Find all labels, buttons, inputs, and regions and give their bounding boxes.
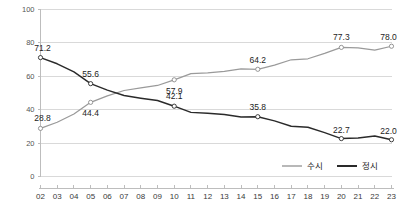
series-markers-정시: 71.255.642.135.822.722.0: [34, 43, 397, 142]
data-point-수시-10: [172, 78, 176, 82]
data-label-수시-02: 28.8: [34, 113, 51, 123]
data-label-수시-05: 44.4: [82, 108, 99, 118]
data-point-수시-15: [256, 67, 260, 71]
legend-label-정시: 정시: [362, 161, 378, 171]
data-label-수시-15: 64.2: [250, 55, 267, 65]
data-point-수시-05: [89, 100, 93, 104]
x-axis-label-11: 11: [187, 192, 196, 201]
x-axis-label-19: 19: [320, 192, 329, 201]
x-axis-label-03: 03: [53, 192, 62, 201]
x-axis-label-08: 08: [136, 192, 145, 201]
x-axis-label-06: 06: [103, 192, 112, 201]
data-label-정시-20: 22.7: [333, 125, 350, 135]
data-point-수시-23: [389, 44, 393, 48]
x-axis-label-07: 07: [120, 192, 129, 201]
x-axis-label-18: 18: [303, 192, 312, 201]
x-axis-label-23: 23: [387, 192, 396, 201]
data-point-수시-20: [339, 45, 343, 49]
x-axis-label-05: 05: [86, 192, 95, 201]
x-axis-label-09: 09: [153, 192, 162, 201]
legend: 수시정시: [282, 161, 378, 171]
grid-group: 020406080100: [22, 5, 392, 181]
y-axis-label-60: 60: [26, 72, 34, 81]
x-axis-label-20: 20: [337, 192, 346, 201]
y-axis-label-20: 20: [26, 139, 34, 148]
data-label-정시-15: 35.8: [250, 102, 267, 112]
x-axis-label-21: 21: [354, 192, 363, 201]
x-axis-label-17: 17: [287, 192, 296, 201]
x-axis-label-13: 13: [220, 192, 229, 201]
x-axis-label-16: 16: [270, 192, 279, 201]
legend-label-수시: 수시: [307, 161, 323, 171]
data-point-정시-15: [256, 115, 260, 119]
data-label-수시-20: 77.3: [333, 32, 350, 42]
y-axis-label-0: 0: [30, 172, 34, 181]
data-point-정시-02: [38, 55, 42, 59]
data-label-정시-05: 55.6: [82, 69, 99, 79]
data-label-정시-23: 22.0: [380, 126, 397, 136]
data-point-정시-20: [339, 136, 343, 140]
x-axis-label-02: 02: [36, 192, 45, 201]
data-label-정시-02: 71.2: [34, 43, 51, 53]
data-point-정시-05: [89, 82, 93, 86]
x-axis-label-12: 12: [203, 192, 212, 201]
x-axis-label-15: 15: [253, 192, 262, 201]
data-label-정시-10: 42.1: [166, 91, 183, 101]
data-point-정시-10: [172, 104, 176, 108]
data-point-정시-23: [389, 138, 393, 142]
y-axis-label-100: 100: [22, 5, 35, 14]
data-label-수시-23: 78.0: [380, 32, 397, 42]
x-axis-label-10: 10: [170, 192, 179, 201]
line-chart: 0204060801000203040506070809101112131415…: [0, 0, 408, 211]
x-axis-label-04: 04: [69, 192, 78, 201]
data-point-수시-02: [38, 126, 42, 130]
chart-canvas: 0204060801000203040506070809101112131415…: [0, 0, 408, 211]
x-axis-group: 0203040506070809101112131415161718192021…: [36, 185, 396, 201]
x-axis-label-22: 22: [370, 192, 379, 201]
x-axis-label-14: 14: [237, 192, 246, 201]
series-markers-수시: 28.844.457.964.277.378.0: [34, 32, 397, 130]
